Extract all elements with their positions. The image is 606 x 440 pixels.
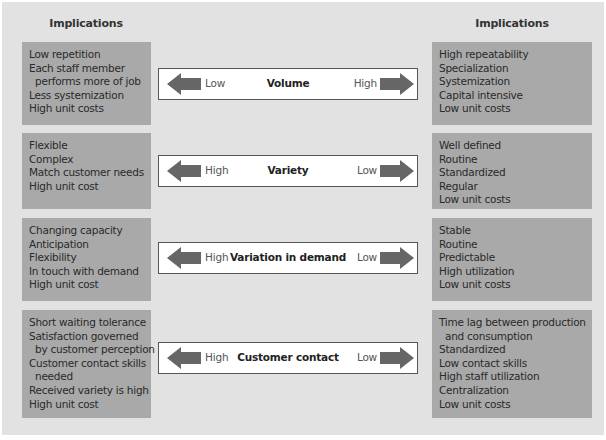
implication-item: Satisfaction governed (29, 330, 145, 344)
implication-item: Flexible (29, 139, 145, 153)
variety-dimension-label: Variety (159, 164, 417, 176)
implication-item: Less systemization (29, 89, 145, 103)
implication-item: Standardized (439, 343, 586, 357)
implication-item: In touch with demand (29, 265, 145, 279)
implication-item: Low unit costs (439, 193, 586, 207)
variation-dimension-label: Variation in demand (159, 251, 417, 263)
volume-right-end-label: High (354, 77, 377, 89)
right-arrow-icon (380, 347, 414, 369)
right-implications-heading: Implications (432, 17, 592, 30)
implication-item: Low contact skills (439, 357, 586, 371)
implication-item: Time lag between production (439, 316, 586, 330)
implication-item: Well defined (439, 139, 586, 153)
implication-item: High unit cost (29, 180, 145, 194)
contact-dimension-bar: High Customer contact Low (158, 342, 418, 374)
implication-item: Low repetition (29, 48, 145, 62)
implication-item: Predictable (439, 251, 586, 265)
implication-item: High unit costs (29, 102, 145, 116)
variety-right-end-label: Low (357, 164, 377, 176)
implication-item: Received variety is high (29, 384, 145, 398)
variation-left-implications: Changing capacityAnticipationFlexibility… (22, 218, 151, 301)
implication-item: Flexibility (29, 251, 145, 265)
variety-right-implications: Well definedRoutineStandardizedRegularLo… (432, 133, 592, 209)
contact-dimension-label: Customer contact (159, 351, 417, 363)
volume-right-implications: High repeatabilitySpecializationSystemiz… (432, 42, 592, 125)
implication-item: Low unit costs (439, 102, 586, 116)
left-implications-heading: Implications (22, 17, 150, 30)
right-arrow-icon (380, 247, 414, 269)
implication-item: Short waiting tolerance (29, 316, 145, 330)
implication-item: Capital intensive (439, 89, 586, 103)
implication-item: Standardized (439, 166, 586, 180)
implication-item: Anticipation (29, 238, 145, 252)
variety-dimension-bar: High Variety Low (158, 155, 418, 187)
implication-item: Customer contact skills (29, 357, 145, 371)
implication-item: High unit cost (29, 398, 145, 412)
right-arrow-icon (380, 160, 414, 182)
implication-item: performs more of job (29, 75, 145, 89)
implication-item: Each staff member (29, 62, 145, 76)
implication-item: Match customer needs (29, 166, 145, 180)
implication-item: High utilization (439, 265, 586, 279)
volume-left-implications: Low repetitionEach staff memberperforms … (22, 42, 151, 125)
implication-item: Stable (439, 224, 586, 238)
contact-left-implications: Short waiting toleranceSatisfaction gove… (22, 310, 151, 418)
right-arrow-icon (380, 73, 414, 95)
contact-right-end-label: Low (357, 351, 377, 363)
implication-item: Centralization (439, 384, 586, 398)
implication-item: High unit cost (29, 278, 145, 292)
implication-item: High repeatability (439, 48, 586, 62)
implication-item: Systemization (439, 75, 586, 89)
implication-item: and consumption (439, 330, 586, 344)
implication-item: needed (29, 370, 145, 384)
variation-right-implications: StableRoutinePredictableHigh utilization… (432, 218, 592, 301)
implication-item: Routine (439, 238, 586, 252)
implication-item: Specialization (439, 62, 586, 76)
implication-item: Complex (29, 153, 145, 167)
implication-item: by customer perception (29, 343, 145, 357)
implication-item: Low unit costs (439, 278, 586, 292)
volume-dimension-label: Volume (159, 77, 417, 89)
contact-right-implications: Time lag between productionand consumpti… (432, 310, 592, 418)
variation-right-end-label: Low (357, 251, 377, 263)
implication-item: Routine (439, 153, 586, 167)
implication-item: Low unit costs (439, 398, 586, 412)
implication-item: Regular (439, 180, 586, 194)
implication-item: High staff utilization (439, 370, 586, 384)
variety-left-implications: FlexibleComplexMatch customer needsHigh … (22, 133, 151, 209)
variation-dimension-bar: High Variation in demand Low (158, 242, 418, 274)
implication-item: Changing capacity (29, 224, 145, 238)
volume-dimension-bar: Low Volume High (158, 68, 418, 100)
